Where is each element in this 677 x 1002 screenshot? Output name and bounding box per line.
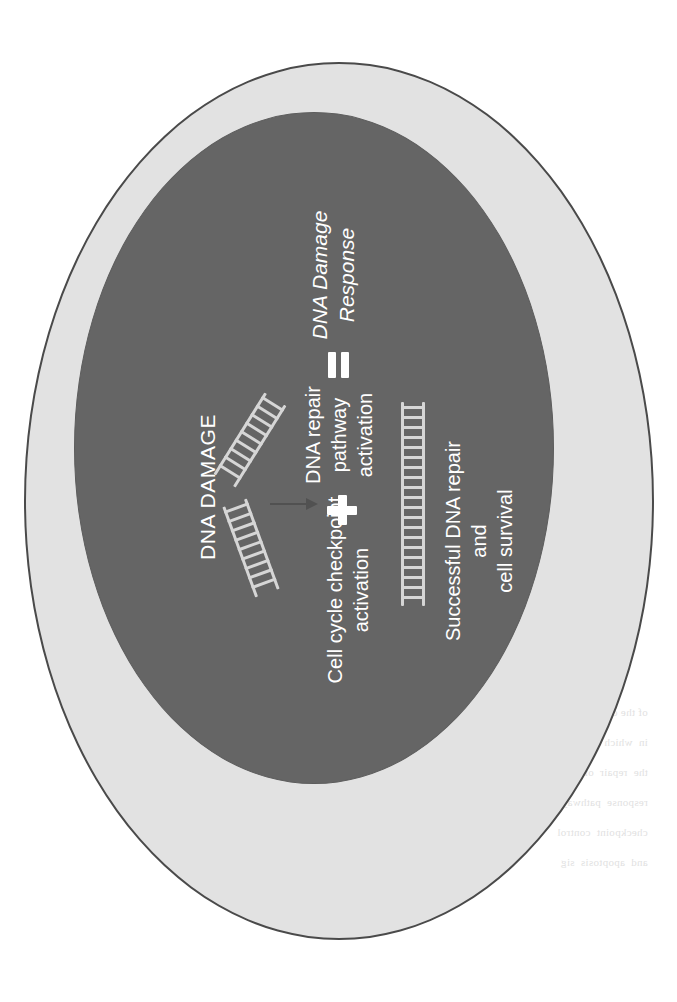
dna-rung bbox=[401, 436, 425, 439]
dna-strand-intact bbox=[401, 402, 425, 606]
equals-icon bbox=[328, 352, 349, 378]
dna-rung bbox=[401, 426, 425, 429]
dna-rung bbox=[401, 566, 425, 569]
dna-rung bbox=[248, 568, 273, 580]
dna-rung bbox=[251, 577, 276, 589]
dna-rung bbox=[401, 516, 425, 519]
dna-rung bbox=[401, 476, 425, 479]
dna-rung bbox=[227, 512, 252, 524]
dna-rung bbox=[401, 506, 425, 509]
label-dna-damage-response: DNA Damage Response bbox=[306, 205, 360, 345]
dna-rung bbox=[401, 406, 425, 409]
bleed-line: and apoptosis sig bbox=[561, 856, 648, 868]
dna-rung bbox=[401, 576, 425, 579]
bleed-line: checkpoint control bbox=[557, 826, 648, 838]
dna-rung bbox=[237, 540, 262, 552]
dna-rung bbox=[241, 549, 266, 561]
dna-rung bbox=[401, 556, 425, 559]
dna-rung bbox=[401, 596, 425, 599]
dna-rung bbox=[234, 530, 259, 542]
diagram-canvas: of the cell is a proce in which DNA dam … bbox=[0, 0, 677, 1002]
label-dna-damage: DNA DAMAGE bbox=[196, 414, 220, 560]
dna-rung bbox=[401, 586, 425, 589]
dna-rung bbox=[401, 466, 425, 469]
dna-rung bbox=[401, 446, 425, 449]
label-dna-repair-pathway: DNA repair pathway activation bbox=[300, 370, 378, 500]
label-successful-repair: Successful DNA repair and cell survival bbox=[440, 426, 518, 656]
dna-rung bbox=[244, 559, 269, 571]
dna-rung bbox=[401, 546, 425, 549]
dna-rung bbox=[401, 456, 425, 459]
dna-rung bbox=[231, 521, 256, 533]
dna-rung bbox=[401, 496, 425, 499]
dna-rung bbox=[401, 526, 425, 529]
dna-rung bbox=[401, 536, 425, 539]
dna-rung bbox=[401, 486, 425, 489]
dna-rung bbox=[401, 416, 425, 419]
